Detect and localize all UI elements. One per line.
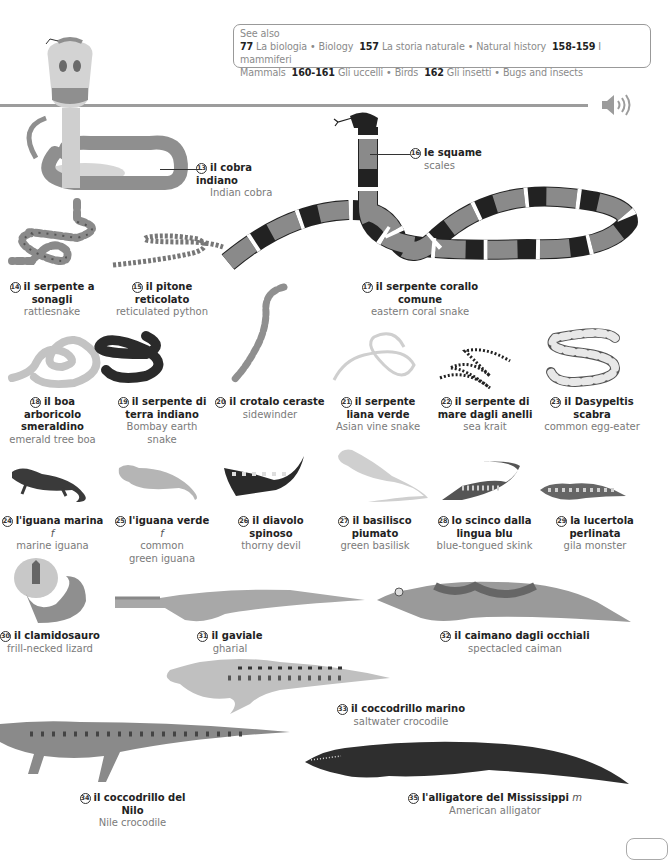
thorny-devil-illustration	[222, 454, 312, 504]
green-iguana-illustration	[115, 460, 210, 502]
number-badge: 24	[2, 516, 13, 527]
italian-name: lo scinco dalla lingua blu	[452, 515, 532, 539]
reticulated-python-illustration	[108, 230, 218, 270]
coral-snake-illustration	[228, 112, 638, 262]
english-name: Bombay earth snake	[112, 421, 212, 446]
english-name: rattlesnake	[2, 306, 102, 319]
italian-name: il serpente liana verde	[346, 396, 415, 420]
number-badge: 25	[115, 516, 126, 527]
see-also-en[interactable]: Mammals	[240, 67, 286, 78]
english-name: thorny devil	[215, 540, 327, 553]
page-number-tab	[626, 838, 668, 860]
english-name: gharial	[195, 643, 265, 656]
see-also-page[interactable]: 77	[240, 41, 253, 52]
number-badge: 21	[341, 397, 352, 408]
english-name: sidewinder	[215, 409, 325, 422]
separator: •	[468, 41, 474, 52]
label-blue-tongued-skink: 28lo scinco dalla lingua blu blue-tongue…	[432, 515, 537, 553]
italian-name: il gaviale	[211, 630, 262, 641]
italian-name: la lucertola perlinata	[569, 515, 633, 539]
italian-name: il diavolo spinoso	[249, 515, 303, 539]
asian-vine-snake-illustration	[330, 330, 420, 388]
label-asian-vine-snake: 21il serpente liana verde Asian vine sna…	[328, 396, 428, 434]
label-american-alligator: 35l'alligatore del Mississippi m America…	[405, 792, 585, 817]
marine-iguana-illustration	[8, 462, 93, 504]
frill-necked-lizard-illustration	[10, 556, 85, 624]
blue-tongued-skink-illustration	[438, 462, 523, 504]
italian-name: l'iguana verde	[129, 515, 209, 526]
number-badge: 23	[550, 397, 561, 408]
emerald-tree-boa-illustration	[8, 330, 88, 388]
separator: •	[494, 67, 500, 78]
see-also-page[interactable]: 157	[359, 41, 379, 52]
english-name: Nile crocodile	[70, 817, 195, 830]
label-green-basilisk: 27il basilisco piumato green basilisk	[330, 515, 420, 553]
number-badge: 19	[118, 397, 129, 408]
english-name: saltwater crocodile	[336, 716, 466, 729]
italian-name: l'iguana marina	[16, 515, 104, 526]
label-python: 15il pitone reticolato reticulated pytho…	[112, 281, 212, 319]
see-also-it[interactable]: Gli uccelli	[338, 67, 383, 78]
number-badge: 30	[0, 631, 11, 642]
italian-name: il pitone reticolato	[135, 281, 193, 305]
gender-marker: f	[51, 528, 55, 539]
see-also-it[interactable]: Gli insetti	[447, 67, 492, 78]
see-also-it[interactable]: La storia naturale	[382, 41, 465, 52]
number-badge: 34	[80, 793, 91, 804]
label-bombay-earth-snake: 19il serpente di terra indiano Bombay ea…	[112, 396, 212, 446]
label-egg-eater: 23il Dasypeltis scabra common egg-eater	[542, 396, 642, 434]
gender-marker: f	[160, 528, 164, 539]
label-gila-monster: 29la lucertola perlinata gila monster	[550, 515, 640, 553]
italian-name: il coccodrillo del Nilo	[94, 792, 186, 816]
english-name: common egg-eater	[542, 421, 642, 434]
english-name: spectacled caiman	[440, 643, 590, 656]
italian-name: le squame	[424, 147, 482, 158]
egg-eater-illustration	[545, 328, 625, 388]
see-also-en[interactable]: Bugs and insects	[503, 67, 583, 78]
label-marine-iguana: 24l'iguana marina f marine iguana	[0, 515, 105, 553]
gila-monster-illustration	[538, 478, 633, 508]
see-also-page[interactable]: 160-161	[292, 67, 335, 78]
gharial-illustration	[115, 588, 365, 628]
see-also-en[interactable]: Biology	[319, 41, 354, 52]
number-badge: 15	[132, 282, 143, 293]
green-basilisk-illustration	[334, 446, 434, 504]
see-also-en[interactable]: Birds	[395, 67, 419, 78]
italian-name: il crotalo ceraste	[229, 396, 324, 407]
number-badge: 18	[30, 397, 41, 408]
sidewinder-illustration	[224, 284, 294, 384]
english-name: blue-tongued skink	[432, 540, 537, 553]
leader-line	[370, 154, 410, 155]
number-badge: 35	[408, 793, 419, 804]
cobra-illustration	[10, 38, 190, 188]
number-badge: 29	[556, 516, 567, 527]
italian-name: l'alligatore del Mississippi	[422, 792, 569, 803]
number-badge: 16	[410, 148, 421, 159]
english-name: Asian vine snake	[328, 421, 428, 434]
italian-name: il serpente di mare dagli anelli	[438, 396, 533, 420]
italian-name: il serpente di terra indiano	[125, 396, 206, 420]
italian-name: il coccodrillo marino	[351, 703, 465, 714]
see-also-it[interactable]: La biologia	[256, 41, 307, 52]
spectacled-caiman-illustration	[375, 578, 633, 626]
english-name: eastern coral snake	[340, 306, 500, 319]
number-badge: 32	[440, 631, 451, 642]
english-name: American alligator	[405, 805, 585, 818]
italian-name: il caimano dagli occhiali	[454, 630, 589, 641]
see-also-page[interactable]: 162	[424, 67, 444, 78]
label-saltwater-crocodile: 33il coccodrillo marino saltwater crocod…	[336, 703, 466, 728]
label-green-iguana: 25l'iguana verde f common green iguana	[112, 515, 212, 565]
number-badge: 26	[238, 516, 249, 527]
number-badge: 28	[438, 516, 449, 527]
rattlesnake-illustration	[15, 200, 100, 275]
number-badge: 20	[215, 397, 226, 408]
italian-name: il Dasypeltis scabra	[564, 396, 633, 420]
see-also-en[interactable]: Natural history	[476, 41, 546, 52]
label-scales: 16le squame scales	[410, 147, 500, 172]
label-thorny-devil: 26il diavolo spinoso thorny devil	[215, 515, 327, 553]
see-also-page[interactable]: 158-159	[552, 41, 595, 52]
english-name: reticulated python	[112, 306, 212, 319]
number-badge: 33	[337, 704, 348, 715]
label-sea-krait: 22il serpente di mare dagli anelli sea k…	[435, 396, 535, 434]
see-also-heading: See also	[240, 27, 644, 40]
